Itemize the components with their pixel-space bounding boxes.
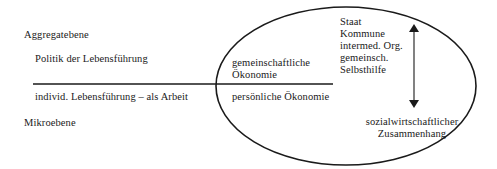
label-line: Zusammenhang: [347, 128, 477, 140]
label-institutions-list: Staat Kommune intermed. Org. gemeinsch. …: [340, 16, 403, 76]
label-intermed-org: intermed. Org.: [340, 40, 403, 52]
label-gemeinschaftliche-oekonomie: gemeinschaftliche Ökonomie: [232, 57, 310, 81]
label-persoenliche-oekonomie: persönliche Ökonomie: [232, 91, 329, 103]
label-line: Ökonomie: [232, 69, 310, 81]
label-staat: Staat: [340, 16, 403, 28]
diagram-shapes: [0, 0, 497, 169]
label-individ-lebensfuehrung: individ. Lebensführung – als Arbeit: [35, 91, 188, 103]
label-kommune: Kommune: [340, 28, 403, 40]
label-politik-lebensfuehrung: Politik der Lebensführung: [35, 53, 148, 65]
label-gemeinsch: gemeinsch.: [340, 52, 403, 64]
label-line: gemeinschaftliche: [232, 57, 310, 69]
level-label-aggregate: Aggregatebene: [24, 29, 89, 41]
label-sozialwirtschaftlicher-zusammenhang: sozialwirtschaftlicher Zusammenhang: [347, 116, 477, 140]
level-label-micro: Mikroebene: [24, 117, 76, 129]
label-line: sozialwirtschaftlicher: [347, 116, 477, 128]
label-selbsthilfe: Selbsthilfe: [340, 64, 403, 76]
diagram-canvas: Aggregatebene Mikroebene Politik der Leb…: [0, 0, 497, 169]
